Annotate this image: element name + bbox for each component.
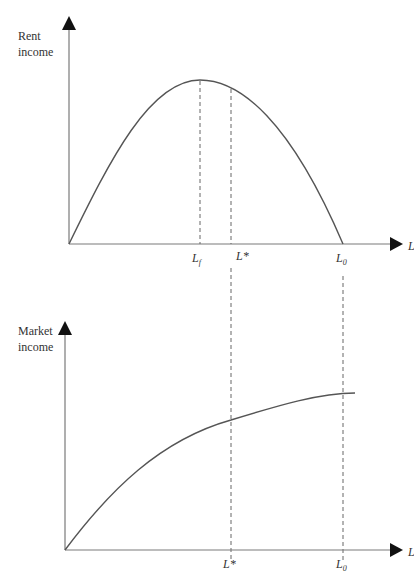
market-income-curve bbox=[65, 393, 355, 550]
market-income-chart: Market income L L* L0 bbox=[18, 321, 414, 573]
arrow-up-icon bbox=[58, 321, 72, 335]
tick-lstar-top: L* bbox=[235, 249, 249, 263]
arrow-right-icon bbox=[390, 237, 403, 251]
rent-xlabel: L bbox=[407, 239, 414, 253]
tick-lstar-bottom: L* bbox=[222, 557, 236, 571]
market-ylabel-2: income bbox=[18, 340, 53, 354]
tick-l0-bottom: L0 bbox=[335, 557, 347, 573]
market-ylabel-1: Market bbox=[18, 324, 53, 338]
tick-lf: Lf bbox=[191, 251, 203, 267]
rent-ylabel-1: Rent bbox=[18, 29, 41, 43]
tick-l0-top: L0 bbox=[335, 251, 347, 267]
arrow-right-icon bbox=[390, 543, 403, 557]
rent-income-chart: Rent income L Lf L* L0 bbox=[18, 16, 414, 267]
diagram-canvas: Rent income L Lf L* L0 Market income L L… bbox=[0, 0, 414, 587]
rent-income-curve bbox=[69, 80, 343, 244]
arrow-up-icon bbox=[62, 16, 76, 30]
market-xlabel: L bbox=[407, 545, 414, 559]
rent-ylabel-2: income bbox=[18, 45, 53, 59]
